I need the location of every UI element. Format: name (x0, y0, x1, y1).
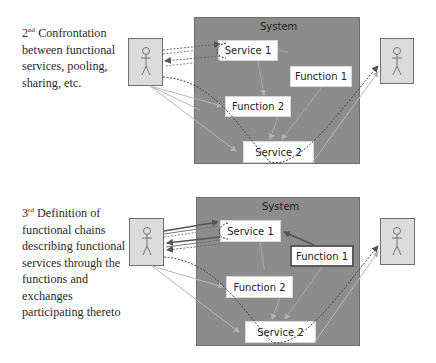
caption-bottom: 3rd Definition of functional chains desc… (22, 205, 125, 321)
caption-line: Definition of (37, 206, 100, 220)
caption-ordinal-suffix: nd (28, 26, 35, 34)
actor-right-top (380, 38, 414, 84)
caption-line: services through the (22, 255, 125, 272)
function-1-node-bottom: Function 1 (290, 245, 354, 267)
function-2-node-bottom: Function 2 (226, 276, 293, 298)
system-label-top: System (260, 21, 297, 32)
caption-ordinal-suffix: rd (28, 206, 34, 214)
service-2-node-bottom: Service 2 (245, 321, 316, 343)
caption-line: services, pooling, (22, 58, 115, 75)
service-2-node-top: Service 2 (243, 141, 314, 163)
caption-line: between functional (22, 42, 115, 59)
service-1-node-top: Service 1 (218, 40, 278, 61)
system-label-bottom: System (262, 201, 299, 212)
actor-left-bottom (129, 218, 164, 266)
caption-line: functions and (22, 271, 125, 288)
function-2-node-top: Function 2 (225, 96, 291, 117)
function-1-node-top: Function 1 (290, 66, 352, 87)
caption-line: participating thereto (22, 304, 125, 321)
caption-line: Confrontation (38, 26, 106, 40)
actor-right-bottom (380, 218, 415, 265)
caption-line: describing functional (22, 238, 125, 255)
caption-line: exchanges (22, 288, 125, 305)
caption-line: sharing, etc. (22, 75, 115, 92)
service-1-node-bottom: Service 1 (220, 220, 281, 242)
caption-top: 2nd Confrontation between functional ser… (22, 25, 115, 91)
caption-line: functional chains (22, 222, 125, 239)
actor-left-top (128, 38, 163, 86)
